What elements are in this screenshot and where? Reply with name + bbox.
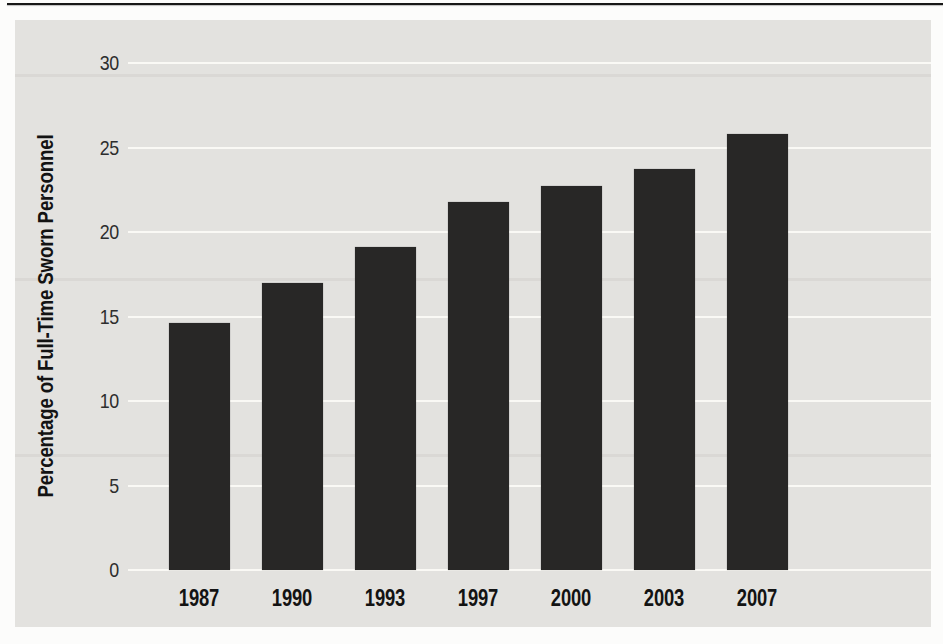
y-tick-label: 25 xyxy=(80,137,119,159)
chart-panel: Percentage of Full-Time Sworn Personnel … xyxy=(15,20,931,627)
y-tick-label: 15 xyxy=(80,306,119,328)
bar xyxy=(727,134,788,570)
bar xyxy=(541,186,602,570)
y-tick-label: 0 xyxy=(80,559,119,581)
gridline xyxy=(128,400,931,402)
gridline xyxy=(128,316,931,318)
gridline xyxy=(128,231,931,233)
bar xyxy=(634,169,695,570)
x-tick-label: 2003 xyxy=(628,585,700,611)
y-axis-title: Percentage of Full-Time Sworn Personnel xyxy=(33,135,59,498)
bar xyxy=(448,202,509,570)
gridline xyxy=(128,62,931,64)
y-tick-label: 5 xyxy=(80,475,119,497)
y-tick-label: 10 xyxy=(80,390,119,412)
gridline xyxy=(128,485,931,487)
x-tick-label: 1987 xyxy=(163,585,235,611)
gridline xyxy=(128,147,931,149)
bar xyxy=(355,247,416,570)
x-tick-label: 2007 xyxy=(721,585,793,611)
x-tick-label: 1993 xyxy=(349,585,421,611)
bar xyxy=(169,323,230,570)
scan-artifact xyxy=(15,74,931,77)
x-tick-label: 2000 xyxy=(535,585,607,611)
x-tick-label: 1997 xyxy=(442,585,514,611)
bar xyxy=(262,283,323,570)
top-rule xyxy=(7,3,943,5)
y-tick-label: 30 xyxy=(80,52,119,74)
gridline xyxy=(128,569,931,571)
x-tick-label: 1990 xyxy=(256,585,328,611)
y-tick-label: 20 xyxy=(80,221,119,243)
